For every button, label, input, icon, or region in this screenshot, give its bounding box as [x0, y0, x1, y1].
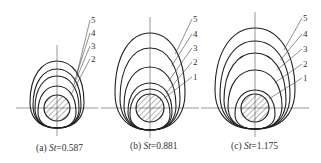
leader-line-4 [172, 34, 192, 66]
curve-label-4: 4 [91, 28, 96, 38]
curve-label-3: 3 [303, 44, 308, 54]
panel-b: 54321 [101, 14, 199, 138]
caption-a: (a) St=0.587 [36, 143, 83, 154]
leader-line-5 [76, 20, 90, 76]
leader-line-4 [74, 33, 90, 82]
curve-label-3: 3 [193, 43, 198, 53]
curve-label-4: 4 [193, 29, 198, 39]
curve-label-1: 1 [303, 73, 308, 83]
panel-c: 54321 [201, 12, 309, 137]
curve-label-2: 2 [193, 57, 198, 67]
figure-canvas: 5432 54321 54321 (a) St=0.587 (b) St=0.8… [0, 0, 321, 163]
caption-a-value: =0.587 [56, 143, 83, 153]
caption-a-prefix: (a) [36, 143, 49, 154]
curve-label-5: 5 [91, 15, 96, 25]
curve-label-1: 1 [193, 72, 198, 82]
curve-label-5: 5 [193, 14, 198, 24]
caption-b-prefix: (b) [130, 141, 143, 152]
caption-b: (b) St=0.881 [130, 141, 178, 152]
caption-c: (c) St=1.175 [231, 141, 278, 152]
caption-c-prefix: (c) [231, 141, 244, 152]
curve-label-2: 2 [91, 54, 96, 64]
leader-line-4 [280, 34, 302, 60]
leader-line-5 [175, 19, 192, 54]
curve-label-2: 2 [303, 59, 308, 69]
curve-label-3: 3 [91, 41, 96, 51]
caption-c-value: =1.175 [251, 141, 278, 151]
shaft-cross-section [44, 95, 70, 121]
panel-a: 5432 [16, 15, 98, 136]
caption-b-value: =0.881 [151, 141, 178, 151]
shaft-cross-section [241, 94, 269, 122]
curve-label-4: 4 [303, 29, 308, 39]
curve-label-5: 5 [303, 13, 308, 23]
shaft-cross-section [136, 94, 164, 122]
